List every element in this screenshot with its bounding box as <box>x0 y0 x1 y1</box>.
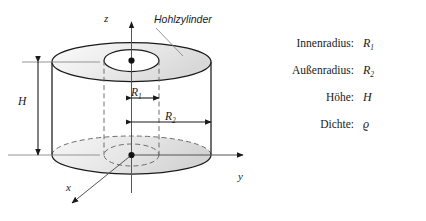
legend-row-hoehe: Höhe: H <box>268 90 418 117</box>
legend-symbol-aussenradius: R2 <box>354 63 374 79</box>
legend-symbol-innenradius: R1 <box>354 36 374 52</box>
height-dimension-label: H <box>18 95 26 107</box>
legend-symbol-dichte: ϱ <box>354 117 369 133</box>
top-center-point <box>128 57 134 63</box>
legend-row-innenradius: Innenradius: R1 <box>268 36 418 63</box>
legend-term-aussenradius: Außenradius: <box>268 64 354 76</box>
parameter-legend: Innenradius: R1 Außenradius: R2 Höhe: H … <box>268 36 418 144</box>
outer-radius-dimension-label: R2 <box>165 110 176 125</box>
legend-term-innenradius: Innenradius: <box>268 37 354 49</box>
legend-row-dichte: Dichte: ϱ <box>268 117 418 144</box>
legend-term-dichte: Dichte: <box>268 118 354 130</box>
x-axis-label: x <box>66 181 71 193</box>
z-axis-label: z <box>104 12 108 24</box>
legend-symbol-hoehe: H <box>354 90 372 106</box>
hohlzylinder-callout-label: Hohlzylinder <box>154 13 212 25</box>
figure-page: Hohlzylinder z y x H R1 R2 Innenradius: … <box>0 0 426 221</box>
origin-point <box>128 152 134 158</box>
legend-row-aussenradius: Außenradius: R2 <box>268 63 418 90</box>
y-axis-label: y <box>238 170 243 182</box>
legend-term-hoehe: Höhe: <box>268 91 354 103</box>
inner-radius-dimension-label: R1 <box>131 86 142 101</box>
